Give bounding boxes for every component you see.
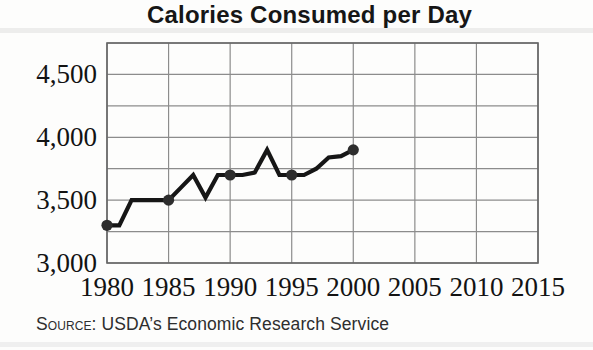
y-tick-label: 4,000: [36, 122, 97, 152]
x-tick-label: 2005: [388, 272, 442, 302]
y-tick-label: 3,500: [36, 185, 97, 215]
x-tick-label: 1995: [265, 272, 319, 302]
y-tick-label: 4,500: [36, 59, 97, 89]
source-caption: Source: USDA’s Economic Research Service: [36, 314, 389, 335]
calories-line-chart: 3,0003,5004,0004,50019801985199019952000…: [0, 0, 593, 350]
data-point-marker: [163, 195, 174, 206]
calories-chart-figure: Calories Consumed per Day 3,0003,5004,00…: [0, 0, 593, 350]
x-tick-label: 1990: [203, 272, 257, 302]
x-tick-label: 1985: [142, 272, 196, 302]
x-tick-label: 2010: [449, 272, 503, 302]
data-point-marker: [286, 169, 297, 180]
source-text: USDA’s Economic Research Service: [102, 314, 390, 334]
source-label: Source:: [36, 314, 97, 334]
x-tick-label: 2015: [511, 272, 565, 302]
data-point-marker: [101, 220, 112, 231]
data-point-marker: [225, 169, 236, 180]
x-tick-label: 1980: [80, 272, 134, 302]
x-tick-label: 2000: [326, 272, 380, 302]
data-point-marker: [348, 144, 359, 155]
plot-border: [107, 43, 538, 263]
